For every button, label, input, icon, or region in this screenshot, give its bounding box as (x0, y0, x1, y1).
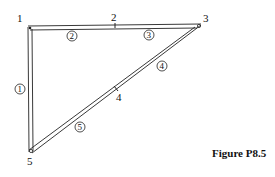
svg-text:3: 3 (147, 30, 152, 40)
svg-text:5: 5 (78, 122, 83, 132)
node-5-marker (29, 149, 32, 152)
node-1-marker (29, 27, 32, 30)
element-label-3: 3 (144, 30, 154, 40)
node-label-3: 3 (203, 12, 209, 24)
node-label-1: 1 (17, 12, 23, 24)
node-label-2: 2 (111, 11, 117, 23)
member-4-5 (29, 25, 201, 153)
member-1 (28, 27, 33, 152)
figure-caption: Figure P8.5 (212, 147, 266, 159)
element-label-2: 2 (67, 31, 77, 41)
svg-text:1: 1 (18, 84, 23, 94)
svg-text:2: 2 (70, 31, 75, 41)
element-label-4: 4 (157, 61, 167, 71)
element-label-1: 1 (15, 84, 25, 94)
element-label-5: 5 (75, 122, 85, 132)
svg-text:4: 4 (160, 61, 165, 71)
node-label-4: 4 (116, 91, 122, 103)
node-label-5: 5 (27, 155, 33, 167)
